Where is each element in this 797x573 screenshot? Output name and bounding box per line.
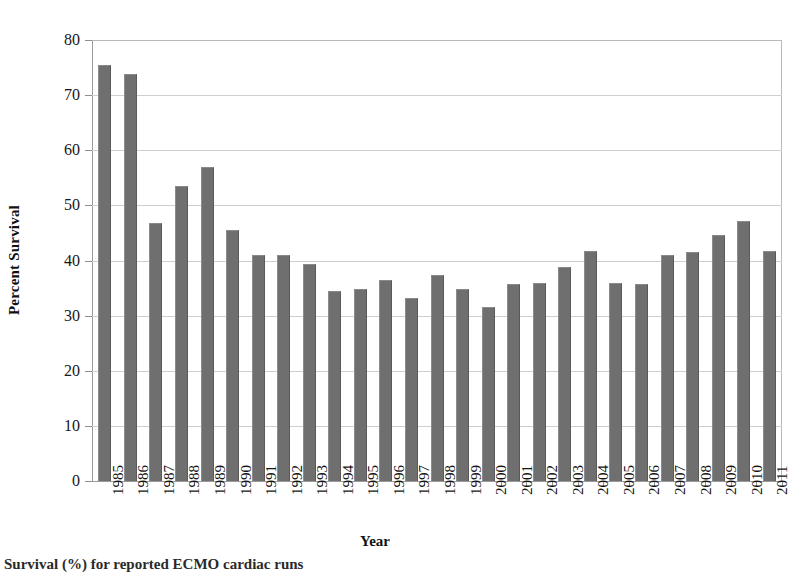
bar <box>405 298 418 481</box>
x-axis-tick-label: 1989 <box>213 465 228 495</box>
bar <box>456 289 469 481</box>
y-axis-tick-mark <box>85 316 92 317</box>
x-axis-title: Year <box>360 533 390 550</box>
x-axis-tick-label: 1990 <box>239 465 254 495</box>
chart-figure: Percent Survival 80706050403020100 19851… <box>0 0 797 573</box>
y-axis-tick-mark <box>85 95 92 96</box>
bar <box>354 289 367 481</box>
y-axis-tick-label: 10 <box>36 418 80 434</box>
y-axis-tick-mark <box>85 150 92 151</box>
bar <box>763 251 776 481</box>
x-axis-tick-label: 2007 <box>673 465 688 495</box>
bar <box>737 221 750 481</box>
bar <box>712 235 725 481</box>
y-axis-tick-label: 40 <box>36 253 80 269</box>
y-axis-tick-label: 50 <box>36 197 80 213</box>
x-axis-tick-label: 1999 <box>469 465 484 495</box>
y-axis-tick-label: 70 <box>36 87 80 103</box>
x-axis-tick-label: 1997 <box>417 465 432 495</box>
y-axis-tick-label: 60 <box>36 142 80 158</box>
y-axis-tick-mark <box>85 426 92 427</box>
y-axis-title: Percent Survival <box>6 150 23 370</box>
bar <box>149 223 162 481</box>
y-axis-tick-label: 0 <box>36 473 80 489</box>
bar <box>686 252 699 481</box>
x-axis-tick-label: 2011 <box>775 466 790 495</box>
x-axis-tick-label: 1992 <box>290 465 305 495</box>
x-axis-tick-label: 2002 <box>545 465 560 495</box>
bar <box>252 255 265 481</box>
figure-caption-text: Survival (%) for reported ECMO cardiac r… <box>4 556 303 573</box>
plot-border-top <box>92 40 782 41</box>
x-axis-tick-label: 1985 <box>111 465 126 495</box>
y-axis-tick-label: 80 <box>36 32 80 48</box>
x-axis-tick-label: 2008 <box>699 465 714 495</box>
bar <box>98 65 111 481</box>
x-axis-tick-label: 2000 <box>494 465 509 495</box>
x-axis-tick-label: 1987 <box>162 465 177 495</box>
bar <box>431 275 444 481</box>
y-axis-tick-mark <box>85 371 92 372</box>
x-axis-tick-label: 1991 <box>264 465 279 495</box>
gridline <box>92 261 782 262</box>
x-axis-tick-label: 1996 <box>392 465 407 495</box>
bar <box>226 230 239 481</box>
bar <box>277 255 290 481</box>
bar <box>328 291 341 481</box>
bar <box>584 251 597 481</box>
bar <box>175 186 188 481</box>
x-axis-tick-label: 1998 <box>443 465 458 495</box>
bar <box>609 283 622 481</box>
bar <box>379 280 392 481</box>
bar <box>533 283 546 481</box>
bar <box>558 267 571 481</box>
x-axis-tick-label: 2001 <box>520 465 535 495</box>
x-axis-tick-label: 2003 <box>571 465 586 495</box>
bar <box>507 284 520 481</box>
figure-caption: Survival (%) for reported ECMO cardiac r… <box>4 556 644 573</box>
bar <box>201 167 214 481</box>
x-axis-tick-label: 2009 <box>724 465 739 495</box>
y-axis-tick-mark <box>85 205 92 206</box>
y-axis-tick-label: 20 <box>36 363 80 379</box>
gridline <box>92 150 782 151</box>
x-axis-tick-label: 1993 <box>315 465 330 495</box>
x-axis-tick-label: 1994 <box>341 465 356 495</box>
bar <box>124 74 137 481</box>
bar <box>482 307 495 481</box>
bar <box>303 264 316 481</box>
x-axis-tick-label: 2006 <box>647 465 662 495</box>
y-axis-tick-mark <box>85 481 92 482</box>
x-axis-tick-label: 2005 <box>622 465 637 495</box>
bar <box>635 284 648 481</box>
x-axis-tick-label: 1995 <box>366 465 381 495</box>
y-axis-tick-mark <box>85 261 92 262</box>
bar <box>661 255 674 481</box>
gridline <box>92 205 782 206</box>
x-axis-tick-label: 2004 <box>596 465 611 495</box>
x-axis-tick-label: 2010 <box>750 465 765 495</box>
x-axis-tick-label: 1988 <box>187 465 202 495</box>
y-axis-tick-mark <box>85 40 92 41</box>
plot-area: 80706050403020100 1985198619871988198919… <box>92 40 782 481</box>
gridline <box>92 95 782 96</box>
y-axis-tick-label: 30 <box>36 308 80 324</box>
x-axis-tick-label: 1986 <box>136 465 151 495</box>
